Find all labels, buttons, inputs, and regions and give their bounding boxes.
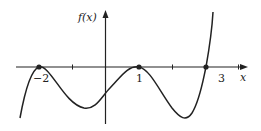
tick-label-3: 3	[218, 72, 225, 85]
y-axis-label: f(x)	[77, 11, 97, 24]
y-axis-arrow-icon	[103, 10, 109, 18]
root-point-neg2	[36, 64, 41, 69]
root-point-1	[136, 64, 141, 69]
x-axis-label: x	[240, 71, 247, 84]
function-curve	[20, 12, 213, 118]
function-plot: f(x) x −2 1 3	[0, 0, 261, 131]
tick-label-1: 1	[136, 72, 143, 85]
tick-label-neg2: −2	[33, 72, 49, 85]
root-point-3	[203, 64, 208, 69]
x-axis-arrow-icon	[240, 64, 248, 70]
